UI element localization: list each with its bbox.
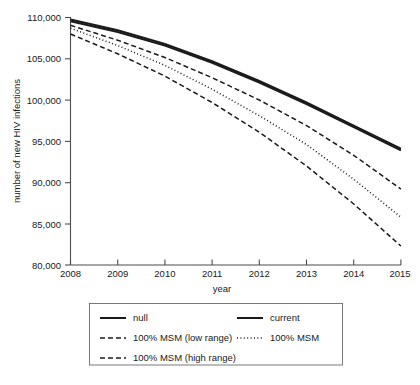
x-tick-label-5: 2013 (296, 268, 317, 279)
legend-label-100-msm: 100% MSM (270, 332, 319, 343)
x-tick-label-2: 2010 (154, 268, 175, 279)
x-tick-label-7: 2015 (389, 268, 410, 279)
legend-label-null: null (133, 312, 148, 323)
legend-group: nullcurrent100% MSM (low range)100% MSM1… (100, 312, 319, 363)
y-tick-label-3: 95,000 (32, 136, 61, 147)
y-axis-ticks (65, 18, 71, 266)
x-tick-label-6: 2014 (343, 268, 364, 279)
y-tick-label-0: 110,000 (27, 12, 61, 23)
x-tick-label-3: 2011 (202, 268, 222, 279)
series-group (71, 20, 401, 246)
chart-svg: 110,000 105,000 100,000 95,000 90,000 85… (0, 0, 420, 385)
x-tick-label-1: 2009 (107, 268, 128, 279)
legend-label-100-msm-low-range: 100% MSM (low range) (133, 332, 232, 343)
y-tick-label-2: 100,000 (27, 95, 61, 106)
series-line-null (71, 20, 401, 149)
y-tick-label-5: 85,000 (32, 219, 61, 230)
series-line-100-msm-low-range (71, 25, 401, 189)
y-tick-label-1: 105,000 (27, 53, 61, 64)
y-tick-label-4: 90,000 (32, 177, 61, 188)
x-axis-title: year (213, 283, 231, 294)
y-tick-label-6: 80,000 (32, 260, 61, 271)
legend-label-current: current (270, 312, 300, 323)
y-axis-title: number of new HIV infections (11, 79, 22, 203)
hiv-infections-line-chart: 110,000 105,000 100,000 95,000 90,000 85… (0, 0, 420, 385)
x-tick-label-4: 2012 (249, 268, 270, 279)
x-tick-label-0: 2008 (60, 268, 81, 279)
x-axis-ticks (71, 260, 401, 266)
series-line-100-msm (71, 28, 401, 217)
legend-label-100-msm-high-range: 100% MSM (high range) (133, 352, 236, 363)
series-line-100-msm-high-range (71, 34, 401, 246)
